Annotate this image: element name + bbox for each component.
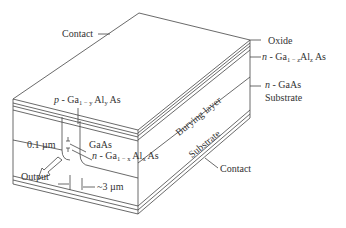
n-gaalas-top-label: n - Ga1 − zAlz As <box>262 52 326 64</box>
thickness-label: 0.1 µm <box>27 140 56 150</box>
laser-structure-diagram: Contact Oxide n - Ga1 − zAlz As n - GaAs… <box>0 0 346 228</box>
output-label: Output <box>21 172 49 182</box>
n-gaas-label: n - GaAs <box>265 80 301 90</box>
width-label: ~3 µm <box>97 182 123 192</box>
oxide-label: Oxide <box>268 36 292 46</box>
contact-top-label: Contact <box>62 29 93 39</box>
contact-bottom-label: Contact <box>220 164 251 174</box>
substrate-right-label: Substrate <box>265 93 302 103</box>
p-gaalas-label: p - Ga1 − y Aly As <box>54 95 121 107</box>
n-gaalas-bottom-label: n - Ga1 − x Alx As <box>92 151 159 163</box>
gaas-active-label: GaAs <box>89 140 112 150</box>
diagram-lines <box>0 0 346 228</box>
